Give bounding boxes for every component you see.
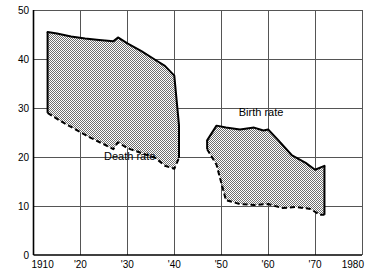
birth-death-rate-chart: 1910'20'30'40'50'60'701980 01020304050 D… xyxy=(0,0,376,279)
x-tick-label-1970: '70 xyxy=(309,259,322,270)
x-tick-label-1920: '20 xyxy=(74,259,87,270)
x-tick-label-1930: '30 xyxy=(121,259,134,270)
x-tick-label-1940: '40 xyxy=(168,259,181,270)
death-rate-label: Death rate xyxy=(104,150,155,162)
x-tick-label-1950: '50 xyxy=(215,259,228,270)
birth-rate-label: Birth rate xyxy=(239,106,284,118)
y-tick-label-40: 40 xyxy=(18,54,30,65)
chart-container: 1910'20'30'40'50'60'701980 01020304050 D… xyxy=(0,0,376,279)
x-tick-label-1910: 1910 xyxy=(32,259,55,270)
y-tick-label-0: 0 xyxy=(23,250,29,261)
x-tick-label-1980: 1980 xyxy=(342,259,365,270)
y-tick-label-50: 50 xyxy=(18,5,30,16)
y-tick-label-20: 20 xyxy=(18,152,30,163)
x-tick-label-1960: '60 xyxy=(262,259,275,270)
y-tick-label-30: 30 xyxy=(18,103,30,114)
y-tick-label-10: 10 xyxy=(18,201,30,212)
